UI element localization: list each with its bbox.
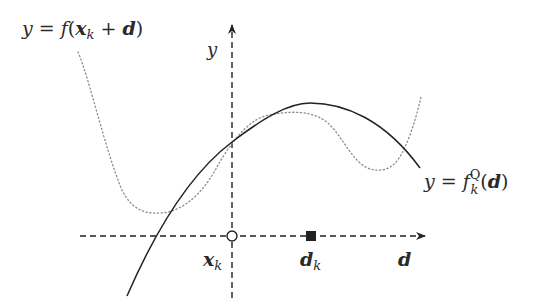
label-main: x — [202, 248, 215, 270]
label-sub: k — [214, 258, 222, 273]
label-plus: + — [94, 17, 122, 39]
label-x-sub: k — [87, 27, 95, 42]
label-close: ) — [501, 170, 508, 192]
true-function-label: y = f(xk + d) — [21, 17, 143, 42]
label-open: ( — [68, 17, 75, 39]
true-function-curve — [78, 52, 421, 213]
horizontal-axis-label: d — [398, 248, 411, 270]
label-sup: Q — [470, 167, 481, 182]
current-point-marker — [227, 231, 237, 241]
current-point-label: xk — [202, 248, 222, 273]
label-open: ( — [480, 170, 487, 192]
label-d: d — [488, 170, 501, 192]
label-lhs: y = — [423, 170, 463, 192]
label-d: d — [122, 17, 135, 39]
label-lhs: y = — [21, 17, 61, 39]
label-close: ) — [136, 17, 143, 39]
diagram-canvas: y = f(xk + d) y y = fQk(d) xk dk d — [0, 0, 550, 306]
label-x: x — [74, 17, 87, 39]
step-label: dk — [300, 248, 321, 273]
label-sub: k — [313, 258, 321, 273]
quadratic-model-label: y = fQk(d) — [423, 167, 508, 197]
label-main: d — [300, 248, 313, 270]
step-marker — [306, 231, 316, 241]
vertical-axis-label: y — [206, 39, 218, 60]
quadratic-model-curve — [127, 103, 420, 296]
label-sub: k — [470, 182, 478, 197]
